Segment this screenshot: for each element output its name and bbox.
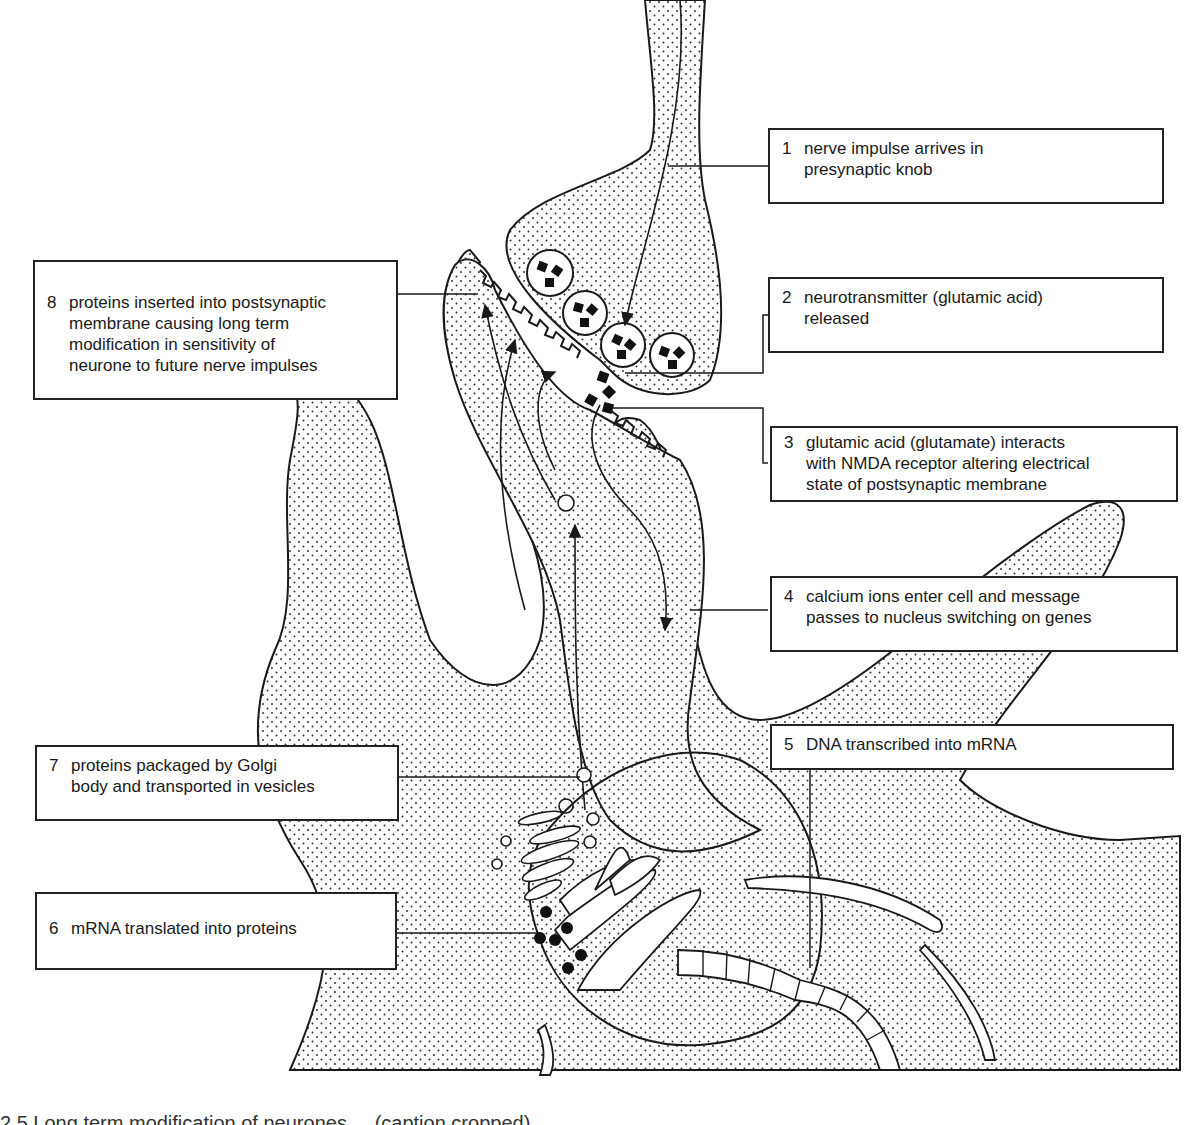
label-step-3: 3 glutamic acid (glutamate) interacts wi… xyxy=(770,426,1178,502)
label-step-2: 2 neurotransmitter (glutamic acid) relea… xyxy=(768,277,1164,353)
label-text: glutamic acid (glutamate) interacts with… xyxy=(806,432,1089,492)
label-step-4: 4 calcium ions enter cell and message pa… xyxy=(770,576,1178,652)
label-step-6: 6 mRNA translated into proteins xyxy=(35,892,397,970)
neurotransmitter-glutamic-acid xyxy=(584,371,616,415)
label-number: 2 xyxy=(782,287,804,343)
label-step-1: 1 nerve impulse arrives in presynaptic k… xyxy=(768,128,1164,204)
label-number: 6 xyxy=(49,918,71,960)
figure-caption: 2.5 Long term modification of neurones .… xyxy=(0,1108,530,1125)
label-number: 3 xyxy=(784,432,806,492)
label-step-5: 5 DNA transcribed into mRNA xyxy=(770,724,1174,770)
label-text: mRNA translated into proteins xyxy=(71,918,297,960)
label-number: 5 xyxy=(784,734,806,760)
label-step-7: 7 proteins packaged by Golgi body and tr… xyxy=(35,745,399,821)
label-text: proteins packaged by Golgi body and tran… xyxy=(71,755,315,811)
label-step-8: 8 proteins inserted into postsynaptic me… xyxy=(33,260,398,400)
label-text: DNA transcribed into mRNA xyxy=(806,734,1017,760)
label-text: nerve impulse arrives in presynaptic kno… xyxy=(804,138,984,194)
label-text: calcium ions enter cell and message pass… xyxy=(806,586,1091,642)
label-number: 7 xyxy=(49,755,71,811)
label-number: 4 xyxy=(784,586,806,642)
label-number: 8 xyxy=(47,292,69,390)
label-number: 1 xyxy=(782,138,804,194)
label-text: neurotransmitter (glutamic acid) release… xyxy=(804,287,1043,343)
label-text: proteins inserted into postsynaptic memb… xyxy=(69,292,326,390)
